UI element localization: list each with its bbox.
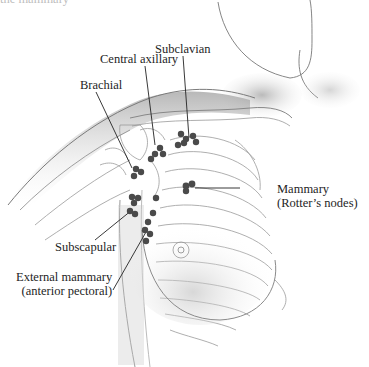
- label-mammary-line1: Mammary: [277, 182, 358, 196]
- label-mammary-line2: (Rotter’s nodes): [277, 196, 358, 210]
- label-external-mammary-line1: External mammary: [16, 270, 112, 284]
- label-subscapular: Subscapular: [55, 240, 116, 254]
- label-brachial: Brachial: [80, 78, 122, 92]
- label-central-axillary: Central axillary: [100, 52, 178, 66]
- lymph-node-diagram: the mammary: [0, 0, 369, 367]
- label-mammary: Mammary (Rotter’s nodes): [277, 182, 358, 210]
- label-external-mammary: External mammary (anterior pectoral): [16, 270, 112, 298]
- label-external-mammary-line2: (anterior pectoral): [16, 284, 112, 298]
